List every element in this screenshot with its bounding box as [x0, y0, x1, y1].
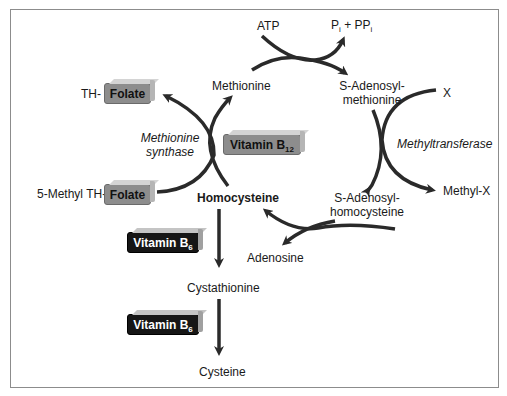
adenosine-label: Adenosine — [247, 251, 304, 265]
folate-box-bottom: Folate — [104, 184, 151, 205]
th-prefix-label: TH- — [81, 87, 101, 101]
atp-arrow — [262, 36, 343, 60]
homocysteine-label: Homocysteine — [197, 191, 279, 205]
cystathionine-label: Cystathionine — [187, 281, 260, 295]
methyl-th-prefix-label: 5-Methyl TH- — [37, 187, 106, 201]
cysteine-label: Cysteine — [199, 365, 246, 379]
folate-box-top: Folate — [104, 83, 151, 104]
vitamin-b12-box: Vitamin B12 — [223, 134, 301, 155]
methionine-synthase-label: Methionine synthase — [138, 131, 202, 159]
atp-label: ATP — [257, 19, 279, 33]
pi-ppi-label: Pi + PPi — [331, 18, 372, 37]
x-label: X — [443, 86, 451, 100]
methyl-x-label: Methyl-X — [443, 184, 490, 198]
methyltransferase-label: Methyltransferase — [397, 137, 492, 151]
sam-to-sah-arrow — [367, 110, 381, 192]
vitamin-b6-box-lower: Vitamin B6 — [127, 314, 199, 335]
sah-label: S-Adenosyl- homocysteine — [327, 191, 407, 219]
sam-label: S-Adenosyl- methionine — [332, 79, 412, 107]
methionine-label: Methionine — [212, 79, 271, 93]
vitamin-b6-box-upper: Vitamin B6 — [127, 232, 199, 253]
